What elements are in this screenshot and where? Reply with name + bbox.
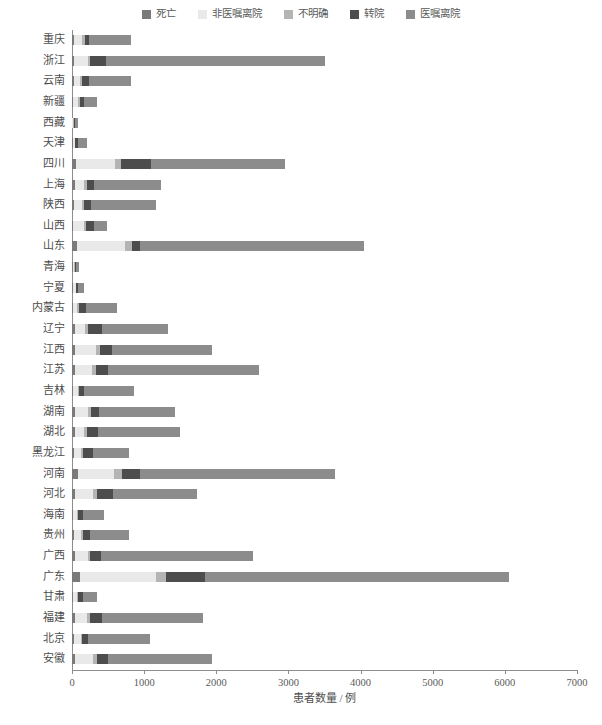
stacked-bar[interactable] <box>72 97 97 107</box>
bar-segment[interactable] <box>84 200 91 210</box>
bar-segment[interactable] <box>75 489 93 499</box>
bar-segment[interactable] <box>86 303 118 313</box>
stacked-bar[interactable] <box>72 572 509 582</box>
bar-segment[interactable] <box>102 613 203 623</box>
bar-segment[interactable] <box>132 241 140 251</box>
bar-segment[interactable] <box>74 634 81 644</box>
bar-segment[interactable] <box>89 35 131 45</box>
bar-segment[interactable] <box>74 35 82 45</box>
bar-segment[interactable] <box>79 303 86 313</box>
stacked-bar[interactable] <box>72 613 203 623</box>
bar-segment[interactable] <box>102 324 168 334</box>
bar-segment[interactable] <box>90 56 106 66</box>
bar-segment[interactable] <box>140 469 336 479</box>
stacked-bar[interactable] <box>72 159 285 169</box>
stacked-bar[interactable] <box>72 345 212 355</box>
stacked-bar[interactable] <box>72 324 168 334</box>
stacked-bar[interactable] <box>72 35 131 45</box>
bar-segment[interactable] <box>75 180 84 190</box>
bar-row[interactable]: 吉林 <box>72 381 577 402</box>
bar-row[interactable]: 广东 <box>72 567 577 588</box>
stacked-bar[interactable] <box>72 221 107 231</box>
bar-segment[interactable] <box>75 118 78 128</box>
stacked-bar[interactable] <box>72 469 335 479</box>
bar-row[interactable]: 北京 <box>72 629 577 650</box>
bar-segment[interactable] <box>86 221 95 231</box>
stacked-bar[interactable] <box>72 407 175 417</box>
stacked-bar[interactable] <box>72 200 156 210</box>
bar-segment[interactable] <box>90 530 129 540</box>
bar-segment[interactable] <box>75 654 93 664</box>
bar-segment[interactable] <box>108 365 258 375</box>
bar-segment[interactable] <box>74 200 82 210</box>
bar-row[interactable]: 湖北 <box>72 422 577 443</box>
bar-segment[interactable] <box>76 159 115 169</box>
bar-row[interactable]: 青海 <box>72 257 577 278</box>
bar-segment[interactable] <box>91 407 99 417</box>
bar-segment[interactable] <box>76 262 79 272</box>
bar-row[interactable]: 内蒙古 <box>72 298 577 319</box>
bar-segment[interactable] <box>125 241 132 251</box>
bar-segment[interactable] <box>100 345 112 355</box>
bar-row[interactable]: 新疆 <box>72 92 577 113</box>
bar-row[interactable]: 山西 <box>72 216 577 237</box>
bar-row[interactable]: 湖南 <box>72 402 577 423</box>
bar-segment[interactable] <box>74 530 81 540</box>
bar-segment[interactable] <box>87 427 98 437</box>
stacked-bar[interactable] <box>72 303 117 313</box>
stacked-bar[interactable] <box>72 76 131 86</box>
bar-segment[interactable] <box>74 448 81 458</box>
bar-segment[interactable] <box>99 407 175 417</box>
bar-segment[interactable] <box>72 572 80 582</box>
bar-segment[interactable] <box>205 572 509 582</box>
bar-segment[interactable] <box>83 592 97 602</box>
bar-row[interactable]: 贵州 <box>72 525 577 546</box>
bar-segment[interactable] <box>112 345 212 355</box>
bar-segment[interactable] <box>97 654 108 664</box>
bar-segment[interactable] <box>97 489 113 499</box>
stacked-bar[interactable] <box>72 654 212 664</box>
bar-row[interactable]: 黑龙江 <box>72 443 577 464</box>
bar-segment[interactable] <box>166 572 205 582</box>
bar-segment[interactable] <box>75 345 97 355</box>
bar-row[interactable]: 陕西 <box>72 195 577 216</box>
bar-segment[interactable] <box>84 386 134 396</box>
bar-segment[interactable] <box>75 407 89 417</box>
stacked-bar[interactable] <box>72 530 129 540</box>
bar-segment[interactable] <box>101 551 253 561</box>
stacked-bar[interactable] <box>72 118 78 128</box>
bar-segment[interactable] <box>113 489 197 499</box>
bar-segment[interactable] <box>90 613 102 623</box>
bar-segment[interactable] <box>89 76 131 86</box>
bar-segment[interactable] <box>108 654 212 664</box>
bar-segment[interactable] <box>87 180 94 190</box>
stacked-bar[interactable] <box>72 283 84 293</box>
stacked-bar[interactable] <box>72 365 259 375</box>
bar-segment[interactable] <box>75 427 85 437</box>
bar-segment[interactable] <box>106 56 325 66</box>
bar-segment[interactable] <box>75 551 88 561</box>
stacked-bar[interactable] <box>72 180 161 190</box>
bar-segment[interactable] <box>94 180 161 190</box>
legend-entry[interactable]: 不明确 <box>284 9 328 20</box>
bar-segment[interactable] <box>122 469 140 479</box>
bar-segment[interactable] <box>88 634 150 644</box>
bar-segment[interactable] <box>88 324 102 334</box>
bar-row[interactable]: 云南 <box>72 71 577 92</box>
bar-row[interactable]: 辽宁 <box>72 319 577 340</box>
legend-entry[interactable]: 医嘱离院 <box>406 9 460 20</box>
bar-segment[interactable] <box>121 159 151 169</box>
bar-segment[interactable] <box>151 159 285 169</box>
bar-segment[interactable] <box>140 241 364 251</box>
bar-segment[interactable] <box>83 530 91 540</box>
stacked-bar[interactable] <box>72 592 97 602</box>
stacked-bar[interactable] <box>72 510 104 520</box>
bar-segment[interactable] <box>114 469 122 479</box>
bar-segment[interactable] <box>78 283 84 293</box>
stacked-bar[interactable] <box>72 448 129 458</box>
bar-segment[interactable] <box>75 613 88 623</box>
bar-segment[interactable] <box>74 56 88 66</box>
legend-entry[interactable]: 非医嘱离院 <box>198 9 262 20</box>
bar-row[interactable]: 江苏 <box>72 360 577 381</box>
stacked-bar[interactable] <box>72 241 364 251</box>
